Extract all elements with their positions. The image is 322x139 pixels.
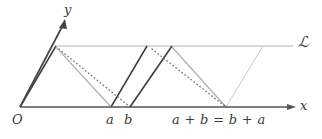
tick-label-sum-equation: a + b = b + a [172, 113, 266, 126]
right-parallelogram-right-side [226, 46, 263, 107]
tick-label-b: b [124, 113, 132, 126]
x-axis-arrowhead [287, 104, 296, 110]
x-axis-label: x [300, 99, 307, 112]
left-parallelogram-dotted-diagonal [59, 49, 130, 107]
left-parallelogram-gray-diagonal [56, 47, 111, 107]
origin-label: O [12, 113, 23, 126]
tick-label-a: a [106, 113, 114, 126]
y-axis-label: y [64, 3, 71, 16]
y-axis-arrowhead [59, 19, 67, 29]
line-script-l-label: ℒ [298, 35, 309, 50]
middle-parallelogram-right-side [130, 46, 172, 107]
diagram-canvas [0, 0, 322, 139]
y-axis [20, 25, 63, 107]
left-parallelogram-right-side [111, 46, 147, 107]
right-parallelogram-gray-diagonal [172, 47, 226, 107]
geometry-figure: O a b a + b = b + a x y ℒ [0, 0, 322, 139]
